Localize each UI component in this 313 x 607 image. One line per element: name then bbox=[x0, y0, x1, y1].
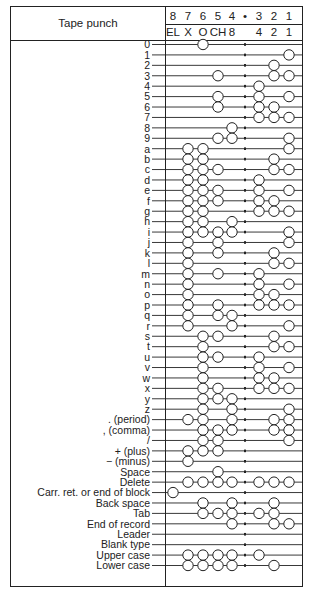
punch-hole bbox=[213, 91, 223, 101]
feed-hole bbox=[244, 95, 246, 98]
punch-hole bbox=[213, 185, 223, 195]
header-title: Tape punch bbox=[58, 17, 117, 29]
feed-hole bbox=[244, 460, 246, 463]
channel-code: O bbox=[199, 26, 208, 38]
code-row: Tab bbox=[133, 507, 302, 519]
punch-hole bbox=[198, 185, 208, 195]
feed-hole bbox=[244, 335, 246, 338]
feed-hole bbox=[244, 64, 246, 67]
channel-number: 4 bbox=[229, 10, 236, 22]
feed-hole bbox=[244, 481, 246, 484]
punch-hole bbox=[183, 206, 193, 216]
punch-hole bbox=[269, 289, 279, 299]
punch-hole bbox=[183, 300, 193, 310]
code-row: t bbox=[147, 340, 302, 352]
punch-hole bbox=[198, 550, 208, 560]
punch-hole bbox=[183, 279, 193, 289]
row-label: Lower case bbox=[96, 559, 150, 571]
punch-hole bbox=[227, 498, 237, 508]
punch-hole bbox=[198, 196, 208, 206]
punch-hole bbox=[198, 331, 208, 341]
code-row: j bbox=[147, 236, 303, 248]
feed-hole bbox=[244, 179, 246, 182]
punch-hole bbox=[269, 560, 279, 570]
code-row: p bbox=[144, 299, 302, 311]
punch-hole bbox=[284, 300, 294, 310]
punch-hole bbox=[183, 185, 193, 195]
punch-hole bbox=[254, 102, 264, 112]
punch-hole bbox=[284, 477, 294, 487]
punch-hole bbox=[254, 279, 264, 289]
channel-number: • bbox=[243, 10, 247, 22]
feed-hole bbox=[244, 512, 246, 515]
punch-hole bbox=[213, 269, 223, 279]
feed-hole bbox=[244, 106, 246, 109]
punch-hole bbox=[213, 102, 223, 112]
channel-number: 6 bbox=[200, 10, 206, 22]
punch-hole bbox=[183, 446, 193, 456]
feed-hole bbox=[244, 418, 246, 421]
code-row: s bbox=[145, 330, 303, 342]
feed-hole bbox=[244, 450, 246, 453]
punch-hole bbox=[227, 133, 237, 143]
punch-hole bbox=[198, 560, 208, 570]
channel-code: EL bbox=[166, 26, 181, 38]
feed-hole bbox=[244, 564, 246, 567]
punch-hole bbox=[183, 477, 193, 487]
code-row: g bbox=[144, 205, 302, 217]
feed-hole bbox=[244, 543, 246, 546]
punch-hole bbox=[254, 185, 264, 195]
code-row: 9 bbox=[144, 132, 302, 144]
channel-number: 3 bbox=[256, 10, 262, 22]
punch-hole bbox=[254, 508, 264, 518]
feed-hole bbox=[244, 408, 246, 411]
feed-hole bbox=[244, 210, 246, 213]
punch-hole bbox=[198, 414, 208, 424]
feed-hole bbox=[244, 523, 246, 526]
code-row: d bbox=[144, 174, 302, 186]
punch-hole bbox=[269, 477, 279, 487]
feed-hole bbox=[244, 502, 246, 505]
punch-hole bbox=[269, 425, 279, 435]
punch-hole bbox=[198, 175, 208, 185]
feed-hole bbox=[244, 189, 246, 192]
punch-hole bbox=[254, 352, 264, 362]
code-row: z bbox=[145, 403, 303, 415]
feed-hole bbox=[244, 272, 246, 275]
code-row: 4 bbox=[144, 80, 302, 92]
channel-number: 8 bbox=[170, 10, 176, 22]
code-row: f bbox=[147, 195, 302, 207]
feed-hole bbox=[244, 262, 246, 265]
punch-hole bbox=[227, 321, 237, 331]
code-row: 7 bbox=[144, 111, 302, 123]
punch-hole bbox=[284, 258, 294, 268]
punch-hole bbox=[213, 508, 223, 518]
feed-hole bbox=[244, 116, 246, 119]
punch-hole bbox=[269, 206, 279, 216]
punch-hole bbox=[269, 258, 279, 268]
punch-hole bbox=[254, 206, 264, 216]
punch-hole bbox=[183, 560, 193, 570]
punch-hole bbox=[269, 71, 279, 81]
code-row: u bbox=[144, 351, 302, 363]
code-row: q bbox=[144, 309, 302, 321]
punch-hole bbox=[213, 467, 223, 477]
punch-hole bbox=[269, 341, 279, 351]
channel-code: 1 bbox=[286, 26, 292, 38]
punch-hole bbox=[198, 216, 208, 226]
punch-hole bbox=[213, 164, 223, 174]
feed-hole bbox=[244, 43, 246, 46]
code-row: n bbox=[144, 278, 302, 290]
punch-hole bbox=[183, 258, 193, 268]
code-row: y bbox=[145, 393, 303, 405]
punch-hole bbox=[198, 341, 208, 351]
punch-hole bbox=[284, 425, 294, 435]
punch-hole bbox=[254, 112, 264, 122]
punch-hole bbox=[269, 164, 279, 174]
code-row: 2 bbox=[144, 59, 302, 71]
punch-hole bbox=[183, 269, 193, 279]
punch-hole bbox=[269, 112, 279, 122]
code-row: i bbox=[148, 226, 303, 238]
punch-hole bbox=[284, 133, 294, 143]
punch-hole bbox=[284, 237, 294, 247]
